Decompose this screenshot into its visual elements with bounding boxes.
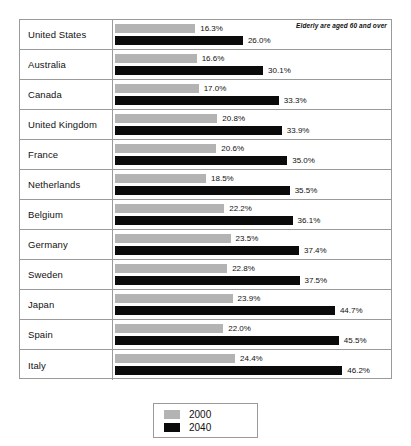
bar-2000 — [115, 264, 227, 273]
chart-legend: 20002040 — [153, 403, 258, 438]
bar-value-label-2000: 24.4% — [240, 354, 263, 363]
legend-label: 2040 — [189, 422, 211, 433]
bar-2040 — [115, 216, 293, 225]
bars-cell: 22.0%45.5% — [113, 320, 391, 349]
country-label: United Kingdom — [20, 110, 113, 139]
bar-value-label-2000: 16.3% — [200, 24, 223, 33]
bar-2040 — [115, 336, 339, 345]
bar-value-label-2040: 35.5% — [295, 186, 318, 195]
table-row: United States16.3%26.0% — [20, 20, 391, 50]
bars-cell: 22.2%36.1% — [113, 200, 391, 229]
legend-items: 20002040 — [164, 408, 257, 434]
bar-value-label-2000: 22.0% — [228, 324, 251, 333]
country-label: Australia — [20, 50, 113, 79]
bar-value-label-2040: 37.4% — [304, 246, 327, 255]
bar-2040 — [115, 66, 263, 75]
bar-2040 — [115, 246, 299, 255]
bar-value-label-2040: 33.3% — [284, 96, 307, 105]
legend-item: 2040 — [164, 421, 257, 434]
bar-2040 — [115, 36, 243, 45]
bar-value-label-2000: 22.8% — [232, 264, 255, 273]
bar-value-label-2000: 23.9% — [238, 294, 261, 303]
country-label: France — [20, 140, 113, 169]
chart-rows: United States16.3%26.0%Australia16.6%30.… — [20, 20, 391, 380]
table-row: Netherlands18.5%35.5% — [20, 170, 391, 200]
country-label: Sweden — [20, 260, 113, 289]
bar-2000 — [115, 24, 195, 33]
bars-cell: 22.8%37.5% — [113, 260, 391, 289]
bar-2040 — [115, 306, 335, 315]
country-label: United States — [20, 20, 113, 49]
legend-label: 2000 — [189, 409, 211, 420]
bars-cell: 20.8%33.9% — [113, 110, 391, 139]
country-label: Canada — [20, 80, 113, 109]
legend-item: 2000 — [164, 408, 257, 421]
bars-cell: 16.6%30.1% — [113, 50, 391, 79]
country-label: Japan — [20, 290, 113, 319]
bar-2000 — [115, 84, 199, 93]
country-label: Spain — [20, 320, 113, 349]
bar-value-label-2000: 22.2% — [229, 204, 252, 213]
bar-value-label-2000: 20.6% — [221, 144, 244, 153]
bars-cell: 18.5%35.5% — [113, 170, 391, 199]
table-row: France20.6%35.0% — [20, 140, 391, 170]
table-row: Spain22.0%45.5% — [20, 320, 391, 350]
bars-cell: 23.5%37.4% — [113, 230, 391, 259]
bar-2040 — [115, 126, 282, 135]
table-row: Italy24.4%46.2% — [20, 350, 391, 380]
bar-value-label-2040: 26.0% — [248, 36, 271, 45]
bars-cell: 20.6%35.0% — [113, 140, 391, 169]
table-row: United Kingdom20.8%33.9% — [20, 110, 391, 140]
table-row: Australia16.6%30.1% — [20, 50, 391, 80]
bar-2040 — [115, 96, 279, 105]
table-row: Sweden22.8%37.5% — [20, 260, 391, 290]
bars-cell: 17.0%33.3% — [113, 80, 391, 109]
bar-value-label-2000: 23.5% — [236, 234, 259, 243]
table-row: Belgium22.2%36.1% — [20, 200, 391, 230]
bar-2000 — [115, 204, 224, 213]
bars-cell: 16.3%26.0% — [113, 20, 391, 49]
bar-value-label-2040: 30.1% — [268, 66, 291, 75]
country-label: Germany — [20, 230, 113, 259]
bar-2000 — [115, 174, 206, 183]
bar-2000 — [115, 354, 235, 363]
bar-2040 — [115, 366, 342, 375]
bar-value-label-2040: 44.7% — [340, 306, 363, 315]
country-label: Belgium — [20, 200, 113, 229]
table-row: Canada17.0%33.3% — [20, 80, 391, 110]
bar-2000 — [115, 114, 217, 123]
bar-value-label-2000: 16.6% — [202, 54, 225, 63]
legend-swatch-2040 — [164, 423, 180, 432]
bar-2000 — [115, 294, 233, 303]
bar-value-label-2040: 36.1% — [298, 216, 321, 225]
bars-cell: 23.9%44.7% — [113, 290, 391, 319]
table-row: Germany23.5%37.4% — [20, 230, 391, 260]
country-label: Netherlands — [20, 170, 113, 199]
bar-2040 — [115, 156, 287, 165]
bar-2040 — [115, 186, 290, 195]
bar-value-label-2000: 18.5% — [211, 174, 234, 183]
table-row: Japan23.9%44.7% — [20, 290, 391, 320]
bar-value-label-2040: 45.5% — [344, 336, 367, 345]
bar-2040 — [115, 276, 300, 285]
bar-2000 — [115, 54, 197, 63]
country-label: Italy — [20, 350, 113, 380]
legend-swatch-2000 — [164, 410, 180, 419]
bar-value-label-2040: 46.2% — [347, 366, 370, 375]
bar-2000 — [115, 324, 223, 333]
bar-value-label-2040: 35.0% — [292, 156, 315, 165]
bar-2000 — [115, 144, 216, 153]
bar-value-label-2040: 37.5% — [305, 276, 328, 285]
bar-value-label-2000: 17.0% — [204, 84, 227, 93]
chart-table: Elderly are aged 60 and over United Stat… — [19, 19, 392, 379]
bar-2000 — [115, 234, 231, 243]
elderly-population-chart: Elderly are aged 60 and over United Stat… — [0, 0, 411, 446]
bar-value-label-2000: 20.8% — [222, 114, 245, 123]
bar-value-label-2040: 33.9% — [287, 126, 310, 135]
bars-cell: 24.4%46.2% — [113, 350, 391, 380]
